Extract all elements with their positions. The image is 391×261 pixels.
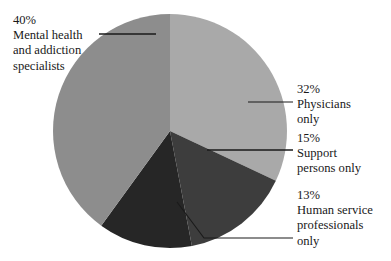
pie-label-human-service-professionals-only: 13% Human service professionals only	[297, 188, 373, 249]
pie-label-line-1: Human service	[297, 203, 373, 218]
pie-label-percent: 32%	[297, 82, 351, 97]
pie-label-line-3: only	[297, 234, 373, 249]
pie-label-line-2: only	[297, 112, 351, 127]
pie-label-support-persons-only: 15% Support persons only	[297, 131, 361, 177]
pie-label-physicians-only: 32% Physicians only	[297, 82, 351, 128]
pie-label-line-2: persons only	[297, 161, 361, 176]
pie-label-line-2: and addiction	[13, 43, 83, 58]
pie-label-percent: 15%	[297, 131, 361, 146]
pie-label-line-1: Physicians	[297, 97, 351, 112]
pie-label-line-1: Mental health	[13, 28, 83, 43]
pie-label-line-2: professionals	[297, 218, 373, 233]
pie-label-line-1: Support	[297, 146, 361, 161]
pie-label-mental-health-and-addiction-specialists: 40% Mental health and addiction speciali…	[13, 13, 83, 74]
pie-label-line-3: specialists	[13, 59, 83, 74]
pie-slices	[53, 14, 287, 248]
pie-label-percent: 40%	[13, 13, 83, 28]
pie-label-percent: 13%	[297, 188, 373, 203]
pie-chart-figure: 40% Mental health and addiction speciali…	[0, 0, 391, 261]
